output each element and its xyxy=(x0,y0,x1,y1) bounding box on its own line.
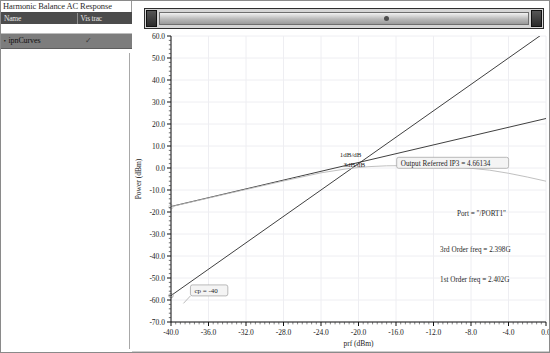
x-tick-label: -36.0 xyxy=(201,328,217,337)
curve-table-header: Name Vis trac xyxy=(1,13,132,25)
y-tick-label: 50.0 xyxy=(152,54,165,63)
x-tick-label: -40.0 xyxy=(163,328,179,337)
chart-annotations: 1dB/dB3dB/dBOutput Referred IP3 = 4.6613… xyxy=(183,151,510,303)
row-name-label: ipnCurves xyxy=(8,34,75,48)
annotation-slope-1db: 1dB/dB xyxy=(340,151,362,159)
y-tick-label: -60.0 xyxy=(149,296,165,305)
y-tick-label: -20.0 xyxy=(149,208,165,217)
annotation-ip3-box: Output Referred IP3 = 4.66134 xyxy=(401,160,491,168)
annotation-third-freq: 3rd Order freq = 2.398G xyxy=(440,246,511,254)
y-tick-label: 60.0 xyxy=(152,32,165,41)
annotation-cp-marker: cp = -40 xyxy=(194,287,218,295)
y-tick-label: -10.0 xyxy=(149,186,165,195)
scrollbar-thumb[interactable] xyxy=(159,12,529,25)
x-tick-label: -16.0 xyxy=(388,328,404,337)
scrollbar-grip-icon[interactable] xyxy=(384,16,389,21)
x-tick-label: 0.0 xyxy=(541,328,550,337)
y-tick-label: 20.0 xyxy=(152,120,165,129)
x-tick-label: -28.0 xyxy=(276,328,292,337)
y-tick-label: -40.0 xyxy=(149,252,165,261)
x-tick-label: -8.0 xyxy=(465,328,477,337)
curve-list-panel: Harmonic Balance AC Response Name Vis tr… xyxy=(1,1,132,353)
x-tick-label: -12.0 xyxy=(426,328,442,337)
column-header-vis-trace[interactable]: Vis trac xyxy=(78,13,133,24)
x-tick-label: -4.0 xyxy=(503,328,515,337)
row-bullet-icon: • xyxy=(1,34,8,48)
table-row-ipncurves[interactable]: • ipnCurves ✓ xyxy=(1,33,132,49)
window-title: Harmonic Balance AC Response xyxy=(3,1,132,12)
row-visible-checkmark-icon[interactable]: ✓ xyxy=(75,34,132,48)
y-tick-label: -70.0 xyxy=(149,318,165,327)
harmonic-balance-window: Harmonic Balance AC Response Name Vis tr… xyxy=(0,0,550,353)
scroll-left-arrow-icon[interactable] xyxy=(146,10,157,27)
y-tick-label: 0.0 xyxy=(156,164,166,173)
annotation-port: Port = "/PORT1" xyxy=(457,210,506,218)
y-axis-title: Power (dBm) xyxy=(134,158,143,199)
annotation-slope-3db: 3dB/dB xyxy=(344,161,366,169)
plot-area: 60.050.040.030.020.010.00.0-10.0-20.0-30… xyxy=(132,30,550,353)
curve-list-frame xyxy=(1,53,130,349)
x-tick-label: -32.0 xyxy=(238,328,254,337)
y-tick-label: 40.0 xyxy=(152,76,165,85)
ipn-curves-chart: 60.050.040.030.020.010.00.0-10.0-20.0-30… xyxy=(132,30,550,353)
y-tick-label: -50.0 xyxy=(149,274,165,283)
x-tick-label: -20.0 xyxy=(351,328,367,337)
y-tick-label: -30.0 xyxy=(149,230,165,239)
y-tick-label: 30.0 xyxy=(152,98,165,107)
x-tick-label: -24.0 xyxy=(313,328,329,337)
y-tick-label: 10.0 xyxy=(152,142,165,151)
scroll-right-arrow-icon[interactable] xyxy=(531,10,542,27)
x-axis-title: prf (dBm) xyxy=(343,339,374,348)
table-spacer xyxy=(1,25,132,33)
column-header-name[interactable]: Name xyxy=(1,13,78,24)
annotation-first-freq: 1st Order freq = 2.402G xyxy=(440,276,509,284)
horizontal-scrollbar[interactable] xyxy=(144,8,544,29)
